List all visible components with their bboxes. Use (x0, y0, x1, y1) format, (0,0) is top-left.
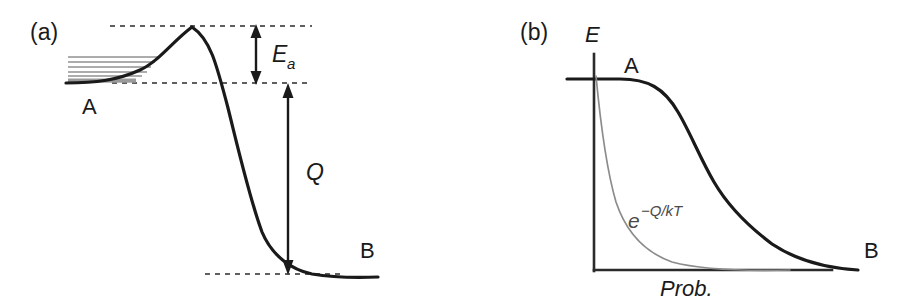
panel-b-x-axis-label: Prob. (660, 276, 713, 301)
boltzmann-factor-curve (596, 76, 790, 270)
activation-energy-label: E a (272, 41, 295, 72)
panel-b-y-axis-label: E (585, 22, 600, 47)
reaction-heat-arrow (283, 83, 294, 275)
panel-a-product-label: B (360, 238, 375, 263)
boltzmann-factor-label: e −Q/kT (628, 202, 684, 232)
figure-root: (a) A B (0, 0, 901, 307)
panel-a-reactant-label: A (82, 94, 97, 119)
potential-energy-curve (66, 27, 378, 277)
activation-energy-arrow (251, 24, 262, 85)
activation-energy-symbol: E (272, 41, 288, 67)
panel-b-label: (b) (520, 19, 548, 45)
panel-a: (a) A B (30, 19, 378, 277)
panel-a-label: (a) (30, 19, 58, 45)
reaction-heat-label: Q (306, 159, 324, 185)
panel-b-reactant-label: A (624, 53, 639, 78)
panel-b-product-label: B (864, 238, 879, 263)
activation-energy-subscript: a (287, 55, 295, 72)
figure-canvas: (a) A B (0, 0, 901, 307)
panel-b: (b) E Prob. A B e −Q/kT (520, 19, 879, 301)
boltzmann-exponent: −Q/kT (641, 202, 684, 219)
energy-distribution-curve (567, 79, 858, 270)
boltzmann-base-symbol: e (628, 209, 640, 232)
